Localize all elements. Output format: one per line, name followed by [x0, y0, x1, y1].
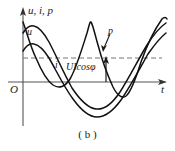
x-axis-label: t — [161, 84, 164, 95]
power-curve-label: p — [108, 26, 113, 36]
power-label-leader — [101, 34, 110, 52]
voltage-curve-label: u — [27, 27, 32, 37]
power-waveform-figure: u, i, p u i p UIcosφ O t ( b ) — [0, 0, 175, 151]
y-axis — [20, 7, 26, 126]
x-axis — [8, 79, 167, 85]
average-power-label: UIcosφ — [66, 62, 95, 72]
current-curve-label: i — [55, 60, 58, 70]
y-axis-label: u, i, p — [28, 5, 53, 16]
origin-label: O — [10, 84, 18, 95]
figure-caption: ( b ) — [0, 129, 175, 140]
